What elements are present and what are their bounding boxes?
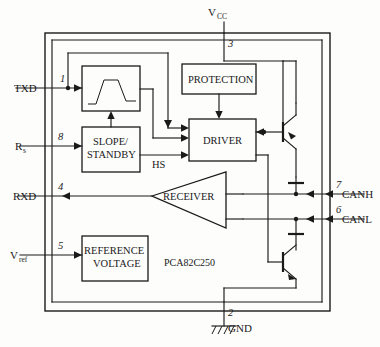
pin-rxd-label: RXD <box>13 190 36 202</box>
protection-label: PROTECTION <box>188 74 254 85</box>
slope-standby-label-1: SLOPE/ <box>93 136 128 147</box>
trapezoid-waveform-icon <box>88 80 136 104</box>
junction-dot-upper-base <box>262 130 266 134</box>
pin-gnd-label: GND <box>228 322 252 334</box>
reference-voltage-block: REFERENCE VOLTAGE <box>82 236 148 281</box>
pin-rs-label: R <box>15 140 23 152</box>
upper-protection-diode <box>288 177 304 194</box>
driver-block: DRIVER <box>189 119 256 161</box>
pin-vcc-label-sub: CC <box>217 12 227 21</box>
slope-standby-block: SLOPE/ STANDBY <box>82 111 140 172</box>
hs-signal-wire: HS <box>140 151 189 170</box>
pin-vref-label-sub: ref <box>19 255 28 264</box>
arrow-txd-into-slope <box>74 84 82 92</box>
pin-rs-group: R s 8 <box>15 131 82 155</box>
upper-output-transistor <box>256 61 296 177</box>
receiver-block: RECEIVER <box>152 172 243 228</box>
reference-voltage-label-1: REFERENCE <box>84 245 144 256</box>
part-number-label: PCA82C250 <box>164 257 215 268</box>
pin-canh-label: CANH <box>342 188 373 200</box>
lower-output-transistor <box>224 155 296 302</box>
arrow-protection-to-driver <box>215 111 222 119</box>
pin-gnd-group: 2 GND <box>212 302 252 334</box>
arrow-hs-into-driver <box>181 151 189 159</box>
pin-canl-label: CANL <box>342 213 372 225</box>
pin-number-8: 8 <box>58 131 64 142</box>
protection-block: PROTECTION <box>182 64 256 119</box>
converter-to-driver-wire <box>140 89 189 142</box>
pin-canh-group: 7 CANH <box>243 179 373 200</box>
pin-number-1: 1 <box>60 73 65 84</box>
slope-converter-block <box>82 66 140 111</box>
arrow-into-driver-top <box>164 120 172 128</box>
arrow-vref-into-block <box>74 251 82 259</box>
reference-voltage-label-2: VOLTAGE <box>93 258 141 269</box>
feedback-to-driver-wire <box>168 124 189 132</box>
circuit-diagram-svg: V CC 3 TXD 1 SLOPE/ STANDBY <box>0 0 380 347</box>
pin-vcc-label-v: V <box>208 6 216 18</box>
junction-dot-txd <box>66 86 70 90</box>
pin-rs-label-sub: s <box>23 146 26 155</box>
pin-rxd-group: RXD 4 <box>13 181 152 202</box>
arrow-canl-inward <box>306 215 314 223</box>
pin-canl-group: 6 CANL <box>243 204 372 225</box>
pin-txd-group: TXD 1 <box>14 73 82 94</box>
pin-number-4: 4 <box>58 181 64 192</box>
txd-feedback-bus <box>68 53 172 128</box>
receiver-label: RECEIVER <box>163 191 214 202</box>
pin-vref-label: V <box>10 249 18 261</box>
pin-vref-group: V ref 5 <box>10 240 82 264</box>
block-diagram-canvas: V CC 3 TXD 1 SLOPE/ STANDBY <box>0 0 380 347</box>
pin-number-2: 2 <box>228 307 234 318</box>
arrow-canl-pin <box>325 215 333 223</box>
arrow-rs-into-standby <box>74 142 82 150</box>
arrow-feedback-driver <box>181 124 189 132</box>
arrow-canh-pin <box>325 190 333 198</box>
slope-standby-label-2: STANDBY <box>87 149 136 160</box>
transistor-emitter-arrow-upper <box>288 132 296 140</box>
arrow-rxd-out <box>62 192 70 200</box>
arrow-standby-to-converter <box>107 111 114 119</box>
pin-number-5: 5 <box>58 240 63 251</box>
junction-dot-canh <box>294 192 298 196</box>
arrow-converter-to-driver <box>181 134 189 142</box>
driver-label: DRIVER <box>203 135 242 146</box>
pin-txd-label: TXD <box>14 82 37 94</box>
hs-signal-label: HS <box>152 159 166 170</box>
arrow-canh-inward <box>306 190 314 198</box>
